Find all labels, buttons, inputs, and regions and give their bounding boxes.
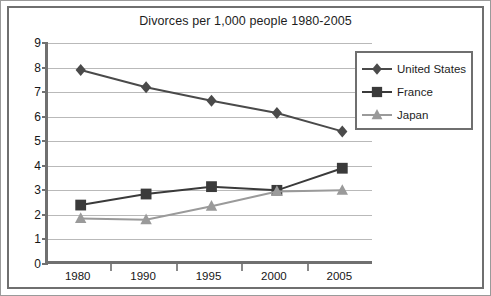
y-axis-tick-label: 5	[34, 134, 41, 148]
y-axis-tick-label: 9	[34, 36, 41, 50]
data-point-marker	[337, 125, 347, 137]
x-axis-tick-label: 2005	[327, 270, 353, 282]
legend-item-label: France	[397, 86, 433, 98]
chart-legend: United StatesFranceJapan	[355, 51, 473, 130]
data-point-marker	[206, 95, 216, 107]
x-axis-tick-label: 1995	[196, 270, 222, 282]
data-point-marker	[272, 107, 282, 119]
y-axis-tick-label: 6	[34, 110, 41, 124]
triangle-marker-icon	[362, 107, 392, 123]
legend-item[interactable]: Japan	[357, 103, 471, 126]
legend-item[interactable]: France	[357, 80, 471, 103]
y-axis-tick-label: 1	[34, 232, 41, 246]
y-axis-tick-label: 0	[34, 257, 41, 271]
chart-title: Divorces per 1,000 people 1980-2005	[1, 14, 490, 28]
x-axis-tick-label: 1990	[130, 270, 156, 282]
square-marker-icon	[362, 84, 392, 100]
data-point-marker	[75, 200, 86, 211]
chart-figure: Divorces per 1,000 people 1980-2005 0123…	[0, 0, 491, 296]
y-axis-tick-label: 4	[34, 159, 41, 173]
data-point-marker	[141, 189, 152, 200]
legend-item[interactable]: United States	[357, 57, 471, 80]
y-axis-tick-label: 3	[34, 183, 41, 197]
data-point-marker	[337, 163, 348, 174]
data-point-marker	[141, 81, 151, 93]
legend-item-label: Japan	[397, 109, 428, 121]
y-axis-tick-labels: 0123456789	[15, 43, 41, 264]
data-point-marker	[206, 181, 217, 192]
legend-item-label: United States	[397, 63, 466, 75]
x-axis-tick-labels: 19801990199520002005	[45, 270, 372, 290]
plot-area	[45, 43, 372, 264]
x-axis-tick-label: 2000	[261, 270, 287, 282]
diamond-marker-icon	[362, 61, 392, 77]
x-axis-tick-label: 1980	[65, 270, 91, 282]
y-axis-tick-label: 2	[34, 208, 41, 222]
series-lines	[48, 43, 372, 261]
y-axis-tick-label: 8	[34, 61, 41, 75]
data-point-marker	[76, 64, 86, 76]
y-axis-tick-label: 7	[34, 85, 41, 99]
